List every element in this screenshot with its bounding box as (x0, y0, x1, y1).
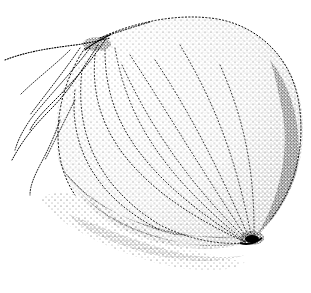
illustration-canvas (0, 0, 311, 293)
root-crown (83, 37, 111, 51)
basal-plate (240, 231, 264, 245)
onion-illustration (0, 0, 311, 293)
